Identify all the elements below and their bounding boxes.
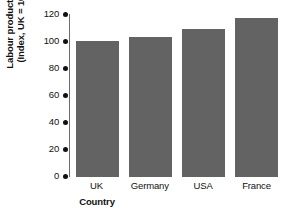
x-label-france: France — [235, 180, 278, 196]
y-tick-label-20: 20 — [49, 143, 59, 155]
x-axis-title: Country — [69, 196, 125, 207]
y-tick-label-120: 120 — [44, 8, 59, 20]
bar-uk — [76, 41, 119, 177]
bar-series — [70, 14, 282, 177]
bar-france — [235, 18, 278, 177]
y-tick-80: 80 — [49, 62, 68, 74]
x-label-germany: Germany — [128, 180, 171, 196]
x-axis-labels: UK Germany USA France — [69, 180, 282, 196]
circle-icon — [63, 66, 68, 71]
x-label-usa: USA — [182, 180, 225, 196]
y-tick-label-40: 40 — [49, 116, 59, 128]
bar-usa — [182, 29, 225, 177]
y-axis-ticks: 120 100 80 60 40 20 0 — [30, 0, 68, 185]
y-tick-120: 120 — [44, 8, 68, 20]
bar-chart: Labour productivity (Index, UK = 100) 12… — [0, 0, 286, 218]
plot-area — [69, 14, 282, 177]
y-axis-title: Labour productivity (Index, UK = 100) — [0, 0, 30, 85]
circle-icon — [63, 93, 68, 98]
y-tick-label-60: 60 — [49, 89, 59, 101]
y-tick-label-100: 100 — [44, 35, 59, 47]
y-tick-20: 20 — [49, 143, 68, 155]
y-axis-title-line-2: (Index, UK = 100) — [15, 0, 27, 63]
circle-icon — [63, 12, 68, 17]
y-tick-100: 100 — [44, 35, 68, 47]
y-tick-label-0: 0 — [54, 170, 59, 182]
y-axis-title-line-1: Labour productivity — [4, 0, 16, 69]
y-tick-0: 0 — [54, 170, 68, 182]
circle-icon — [63, 174, 68, 179]
circle-icon — [63, 120, 68, 125]
y-tick-label-80: 80 — [49, 62, 59, 74]
bar-germany — [129, 37, 172, 177]
x-label-uk: UK — [75, 180, 118, 196]
circle-icon — [63, 147, 68, 152]
y-tick-60: 60 — [49, 89, 68, 101]
y-tick-40: 40 — [49, 116, 68, 128]
circle-icon — [63, 39, 68, 44]
